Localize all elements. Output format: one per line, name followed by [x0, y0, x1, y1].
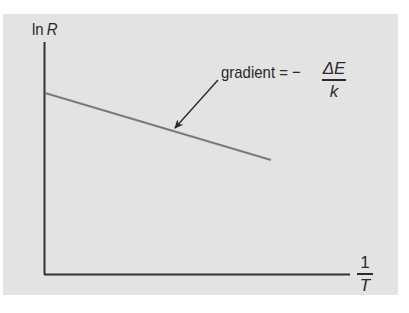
y-axis-label: ln R	[32, 21, 57, 38]
gradient-denominator: k	[330, 83, 339, 100]
data-line	[45, 93, 271, 160]
gradient-annotation-text: gradient = −	[221, 64, 301, 81]
x-axis-numerator: 1	[360, 254, 369, 271]
gradient-fraction-bar	[322, 79, 346, 81]
y-axis-label-prefix: ln	[32, 20, 44, 39]
x-axis-label: 1 T	[357, 254, 373, 294]
annotation-arrow-icon	[175, 80, 218, 128]
gradient-fraction: ΔE k	[322, 60, 346, 100]
y-axis-label-var: R	[47, 20, 58, 39]
gradient-numerator: ΔE	[323, 60, 346, 77]
x-axis-denominator: T	[360, 277, 370, 294]
x-axis-fraction-bar	[357, 273, 373, 275]
plot-area	[0, 0, 409, 313]
